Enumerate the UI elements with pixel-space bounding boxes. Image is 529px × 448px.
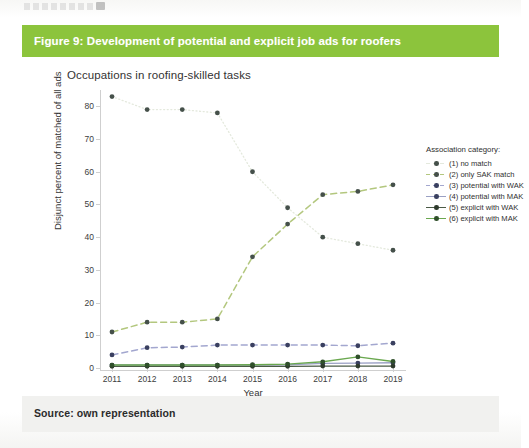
- figure-panel: Occupations in roofing-skilled tasks Dis…: [22, 57, 499, 396]
- source-text: Source: own representation: [34, 407, 175, 419]
- data-point-marker: [145, 345, 150, 350]
- legend-item-s4[interactable]: (4) potential with MAK: [426, 191, 529, 202]
- figure-caption-band: Figure 9: Development of potential and e…: [22, 25, 499, 57]
- data-point-marker: [285, 205, 290, 210]
- x-tick-label: 2011: [103, 374, 121, 384]
- data-point-marker: [145, 363, 150, 368]
- data-point-marker: [320, 235, 325, 240]
- data-point-marker: [180, 345, 185, 350]
- data-point-marker: [391, 248, 396, 253]
- data-point-marker: [355, 354, 360, 359]
- data-point-marker: [391, 359, 396, 364]
- data-point-marker: [215, 110, 220, 115]
- legend-rows: (1) no match(2) only SAK match(3) potent…: [426, 158, 529, 224]
- y-tick-label: 40: [78, 232, 94, 242]
- data-point-marker: [215, 343, 220, 348]
- data-point-marker: [215, 363, 220, 368]
- legend-item-label: (2) only SAK match: [449, 170, 514, 179]
- data-point-marker: [285, 222, 290, 227]
- data-point-marker: [355, 241, 360, 246]
- data-point-marker: [285, 343, 290, 348]
- legend-item-s5[interactable]: (5) explicit with WAK: [426, 202, 529, 213]
- legend-item-label: (3) potential with WAK: [449, 181, 524, 190]
- data-point-marker: [391, 341, 396, 346]
- data-point-marker: [320, 364, 325, 369]
- x-tick-label: 2014: [208, 374, 227, 384]
- legend-item-label: (6) explicit with MAK: [449, 214, 518, 223]
- plot-wrapper: Disjunct percent of matched of all ads Y…: [22, 57, 499, 396]
- data-point-marker: [110, 94, 115, 99]
- y-tick-label: 20: [78, 298, 94, 308]
- x-tick-mark: [393, 368, 394, 372]
- data-point-marker: [250, 343, 255, 348]
- x-tick-label: 2015: [243, 374, 262, 384]
- data-point-marker: [145, 107, 150, 112]
- y-tick-label: 80: [78, 101, 94, 111]
- data-point-marker: [250, 362, 255, 367]
- page-artifact-smudge: [24, 3, 94, 10]
- legend-swatch-icon: [426, 191, 446, 202]
- data-point-marker: [145, 320, 150, 325]
- source-band: Source: own representation: [22, 396, 499, 432]
- data-point-marker: [355, 189, 360, 194]
- y-tick-mark: [96, 368, 100, 369]
- y-tick-label: 60: [78, 167, 94, 177]
- data-point-marker: [215, 317, 220, 322]
- data-point-marker: [250, 169, 255, 174]
- x-tick-label: 2016: [278, 374, 297, 384]
- y-tick-label: 70: [78, 134, 94, 144]
- y-tick-label: 30: [78, 265, 94, 275]
- x-tick-label: 2017: [313, 374, 332, 384]
- data-point-marker: [110, 330, 115, 335]
- data-point-marker: [391, 182, 396, 187]
- legend-swatch-icon: [426, 180, 446, 191]
- figure-caption-text: Figure 9: Development of potential and e…: [34, 35, 401, 47]
- y-tick-label: 0: [78, 363, 94, 373]
- data-point-marker: [180, 107, 185, 112]
- legend-swatch-icon: [426, 169, 446, 180]
- page-artifact-mark: [96, 2, 105, 10]
- legend-swatch-icon: [426, 213, 446, 224]
- data-point-marker: [180, 320, 185, 325]
- data-point-marker: [320, 192, 325, 197]
- legend-title: Association category:: [426, 145, 529, 154]
- data-point-marker: [355, 343, 360, 348]
- data-point-marker: [110, 363, 115, 368]
- x-tick-mark: [358, 368, 359, 372]
- data-point-marker: [391, 364, 396, 369]
- legend-item-s2[interactable]: (2) only SAK match: [426, 169, 529, 180]
- data-point-marker: [355, 364, 360, 369]
- legend-item-label: (1) no match: [449, 159, 492, 168]
- data-point-marker: [320, 359, 325, 364]
- x-tick-label: 2012: [138, 374, 157, 384]
- legend-item-s1[interactable]: (1) no match: [426, 158, 529, 169]
- data-point-marker: [180, 363, 185, 368]
- y-tick-label: 10: [78, 330, 94, 340]
- data-point-marker: [320, 343, 325, 348]
- x-tick-label: 2018: [348, 374, 367, 384]
- x-tick-label: 2019: [384, 374, 403, 384]
- legend-swatch-icon: [426, 158, 446, 169]
- data-point-marker: [110, 353, 115, 358]
- legend-item-label: (5) explicit with WAK: [449, 203, 518, 212]
- chart-legend: Association category: (1) no match(2) on…: [426, 145, 529, 224]
- legend-swatch-icon: [426, 202, 446, 213]
- x-tick-label: 2013: [173, 374, 192, 384]
- data-point-marker: [250, 254, 255, 259]
- plot-area: [100, 90, 405, 368]
- y-axis-title: Disjunct percent of matched of all ads: [52, 72, 63, 230]
- legend-item-label: (4) potential with MAK: [449, 192, 523, 201]
- y-tick-label: 50: [78, 199, 94, 209]
- legend-item-s3[interactable]: (3) potential with WAK: [426, 180, 529, 191]
- data-point-marker: [285, 362, 290, 367]
- x-tick-mark: [323, 368, 324, 372]
- legend-item-s6[interactable]: (6) explicit with MAK: [426, 213, 529, 224]
- series-canvas: [100, 90, 405, 368]
